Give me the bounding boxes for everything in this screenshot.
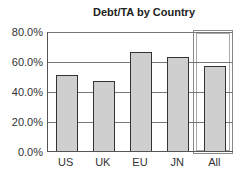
y-tick-label: 80.0% [0,26,43,38]
x-tick-label: JN [162,156,192,168]
gridline [48,32,233,33]
y-tick-label: 0.0% [0,146,43,158]
x-tick-label: All [199,156,229,168]
x-tick-label: UK [88,156,118,168]
bar-us [56,75,78,152]
y-tick-label: 40.0% [0,86,43,98]
chart-title: Debt/TA by Country [0,6,248,18]
bar-all [204,66,226,152]
bar-uk [93,81,115,152]
plot-area [47,32,233,152]
bar-jn [167,57,189,152]
bar-eu [130,52,152,151]
y-tick-label: 60.0% [0,56,43,68]
x-tick-label: US [51,156,81,168]
y-tick-label: 20.0% [0,116,43,128]
x-tick-label: EU [125,156,155,168]
